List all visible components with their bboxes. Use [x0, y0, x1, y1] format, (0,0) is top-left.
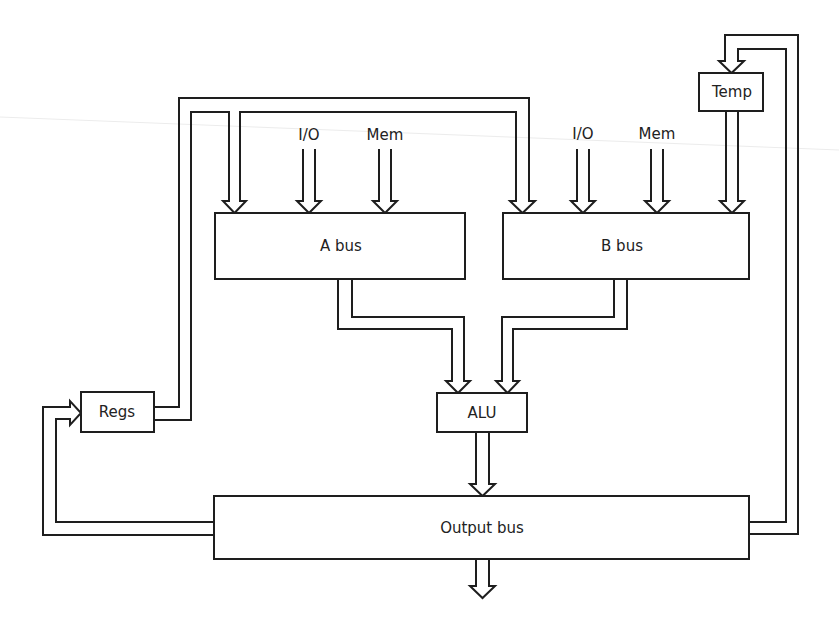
arrow-alu-to-output-bus [470, 432, 495, 496]
arrow-b-bus-to-alu [496, 279, 627, 393]
arrow-output-bus-out [470, 559, 495, 598]
arrow-mem-to-b-bus [645, 150, 669, 213]
a-io-input-label: I/O [298, 126, 319, 144]
b-bus-label: B bus [601, 237, 643, 255]
node-temp: Temp [699, 73, 763, 111]
node-output-bus: Output bus [214, 496, 749, 559]
scan-artifact-line [0, 117, 839, 150]
arrow-mem-to-a-bus [373, 150, 397, 213]
arrow-io-to-a-bus [297, 150, 321, 213]
b-io-input-label: I/O [572, 125, 593, 143]
regs-label: Regs [99, 403, 135, 421]
b-mem-input-label: Mem [639, 125, 676, 143]
node-a-bus: A bus [215, 213, 465, 279]
alu-label: ALU [468, 404, 497, 422]
bus-architecture-diagram: Temp A bus B bus ALU Regs Output bus I/O… [0, 0, 839, 629]
a-mem-input-label: Mem [367, 126, 404, 144]
temp-label: Temp [711, 83, 752, 101]
a-bus-label: A bus [320, 237, 362, 255]
node-regs: Regs [81, 392, 154, 432]
diagram-canvas: Temp A bus B bus ALU Regs Output bus I/O… [0, 0, 839, 629]
node-b-bus: B bus [503, 213, 749, 279]
node-alu: ALU [437, 393, 527, 432]
arrow-temp-to-b-bus [720, 111, 744, 213]
output-bus-label: Output bus [440, 519, 524, 537]
arrow-io-to-b-bus [571, 150, 595, 213]
arrow-a-bus-to-alu [338, 279, 470, 393]
